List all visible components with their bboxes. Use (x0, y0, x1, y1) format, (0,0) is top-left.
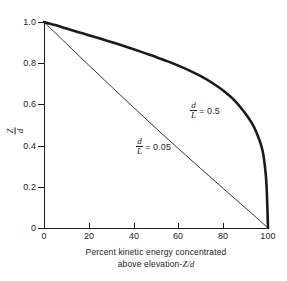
curve-label-dl-0-05-denominator: L (136, 147, 143, 156)
y-axis-tick-label: 0.2 (23, 183, 36, 192)
y-axis-tick (38, 146, 44, 147)
curve-label-dl-0-5: d L = 0.5 (190, 101, 220, 121)
y-axis-title-denominator: d (16, 127, 25, 134)
x-axis-tick-label: 20 (84, 232, 94, 241)
x-axis-title-line2-prefix: above elevation- (118, 259, 183, 269)
y-axis-title: Z d (4, 108, 28, 154)
y-axis-tick (38, 228, 44, 229)
y-axis-tick (38, 187, 44, 188)
chart-curve (44, 22, 268, 228)
x-axis-tick (89, 223, 90, 228)
chart-curve (44, 22, 268, 228)
x-axis-tick-label: 100 (260, 232, 275, 241)
y-axis-title-fraction: Z d (6, 127, 26, 134)
curve-label-dl-0-5-fraction: d L (190, 101, 197, 121)
x-axis-title: Percent kinetic energy concentrated abov… (44, 246, 268, 270)
x-axis-title-line2: above elevation-Z/d (44, 258, 268, 270)
x-axis-tick-label: 60 (173, 232, 183, 241)
chart-figure: 00.20.40.60.81.0020406080100 Z d Percent… (0, 0, 287, 281)
x-axis-tick (178, 223, 179, 228)
y-axis-tick (38, 63, 44, 64)
y-axis-title-rotated: Z d (6, 127, 26, 134)
y-axis-tick-label: 1.0 (23, 18, 36, 27)
y-axis-tick (38, 104, 44, 105)
x-axis-tick-label: 40 (129, 232, 139, 241)
y-axis-tick-label: 0 (31, 224, 36, 233)
x-axis-tick (268, 223, 269, 228)
curve-label-dl-0-5-value: = 0.5 (199, 106, 220, 116)
y-axis-line (44, 22, 45, 229)
x-axis-tick (223, 223, 224, 228)
x-axis-tick (134, 223, 135, 228)
x-axis-tick-label: 80 (218, 232, 228, 241)
curve-label-dl-0-05-fraction: d L (136, 137, 143, 157)
x-axis-title-var-d: d (190, 259, 194, 269)
curve-label-dl-0-05: d L = 0.05 (136, 137, 171, 157)
curve-label-dl-0-5-denominator: L (190, 111, 197, 120)
curve-label-dl-0-05-value: = 0.05 (145, 142, 171, 152)
x-axis-tick-label: 0 (41, 232, 46, 241)
x-axis-line (44, 228, 269, 229)
y-axis-tick (38, 22, 44, 23)
x-axis-title-line1: Percent kinetic energy concentrated (44, 246, 268, 258)
y-axis-tick-label: 0.8 (23, 59, 36, 68)
